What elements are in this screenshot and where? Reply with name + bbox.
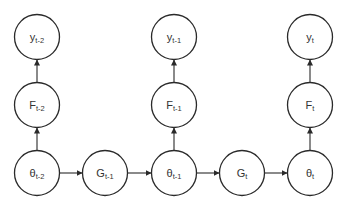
node-label-sub: t-1 [172, 36, 181, 45]
node-F-t: Ft [288, 83, 333, 128]
node-F-t-1: Ft-1 [152, 83, 197, 128]
node-G-t-1: Gt-1 [83, 151, 128, 196]
node-label-base: G [237, 167, 246, 179]
node-label-sub: t-2 [36, 104, 45, 113]
graphical-model-diagram: yt-2 Ft-2 θt-2 Gt-1 yt-1 Ft-1 θt-1 Gt [0, 0, 344, 205]
node-label-sub: t-1 [173, 172, 182, 181]
node-label-sub: t-2 [35, 36, 44, 45]
node-label-sub: t-1 [173, 104, 182, 113]
node-y-t-1: yt-1 [152, 15, 197, 60]
node-y-t: yt [288, 15, 333, 60]
node-label-sub: t-2 [36, 172, 45, 181]
node-theta-t: θt [288, 151, 333, 196]
node-G-t: Gt [220, 151, 265, 196]
node-theta-t-1: θt-1 [152, 151, 197, 196]
diagram-svg: yt-2 Ft-2 θt-2 Gt-1 yt-1 Ft-1 θt-1 Gt [0, 0, 344, 205]
node-label-sub: t-1 [105, 172, 114, 181]
node-label-base: G [96, 167, 105, 179]
node-theta-t-2: θt-2 [15, 151, 60, 196]
node-F-t-2: Ft-2 [15, 83, 60, 128]
node-y-t-2: yt-2 [15, 15, 60, 60]
